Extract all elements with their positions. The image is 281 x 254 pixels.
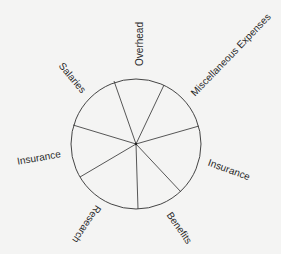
spoke-line — [136, 144, 138, 209]
spoke-line — [73, 125, 136, 144]
budget-pie-diagram: Overhead Miscellaneous Expenses Insuranc… — [0, 0, 281, 254]
spokes — [73, 81, 199, 209]
center-point — [135, 143, 137, 145]
label-overhead: Overhead — [135, 22, 145, 66]
spoke-line — [114, 81, 136, 144]
spoke-line — [136, 126, 199, 144]
spoke-line — [136, 144, 181, 192]
spoke-line — [136, 85, 164, 144]
spoke-line — [80, 144, 136, 177]
